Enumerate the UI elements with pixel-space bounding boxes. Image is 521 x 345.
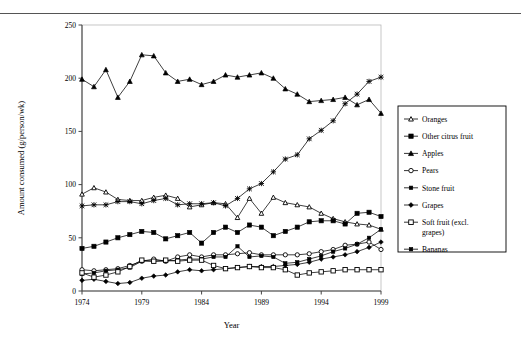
marker-filled-square (319, 219, 323, 223)
series-oranges (80, 185, 384, 231)
marker-star (199, 201, 204, 206)
marker-star (223, 203, 228, 208)
marker-star (175, 202, 180, 207)
marker-open-square (80, 271, 84, 275)
legend-label: Pears (422, 166, 438, 175)
series-apples (80, 52, 384, 115)
marker-filled-triangle (259, 70, 264, 74)
marker-filled-square (271, 234, 275, 238)
marker-star (235, 196, 240, 201)
marker-filled-diamond (116, 281, 121, 286)
x-tick-label: 1994 (314, 298, 329, 307)
series-other-citrus-fruit (80, 210, 383, 250)
marker-filled-square (307, 220, 311, 224)
series-line (82, 188, 381, 229)
marker-filled-triangle (127, 79, 132, 83)
series-bananas (79, 74, 383, 208)
marker-filled-diamond (175, 270, 180, 275)
marker-open-circle (379, 247, 383, 251)
marker-open-circle (367, 240, 371, 244)
marker-filled-triangle (187, 77, 192, 81)
marker-open-circle (409, 168, 413, 172)
legend-box (398, 106, 506, 252)
marker-open-square (295, 273, 299, 277)
marker-small-filled-square (409, 186, 412, 189)
y-axis-title: Amount consumed (g/person/wk) (16, 101, 26, 215)
marker-open-circle (235, 252, 239, 256)
x-tick-label: 1984 (194, 298, 209, 307)
marker-open-square (379, 268, 383, 272)
marker-filled-square (188, 230, 192, 234)
marker-filled-diamond (187, 267, 192, 272)
marker-small-filled-square (409, 247, 412, 250)
legend-label: Apples (422, 149, 444, 158)
x-tick-label: 1999 (374, 298, 389, 307)
marker-open-square (247, 264, 251, 268)
legend-label: Bananas (422, 245, 448, 254)
marker-star (295, 152, 300, 157)
series-soft-fruit-excl-grapes (80, 258, 383, 279)
series-line (82, 260, 381, 277)
legend-label: Stone fruit (422, 184, 455, 193)
marker-star (115, 199, 120, 204)
marker-filled-square (211, 230, 215, 234)
marker-open-triangle (271, 195, 276, 199)
series-line (82, 77, 381, 206)
marker-open-triangle (104, 190, 109, 194)
marker-open-square (355, 268, 359, 272)
marker-open-square (367, 268, 371, 272)
marker-star (307, 136, 312, 141)
marker-open-square (283, 268, 287, 272)
marker-open-triangle (175, 196, 180, 200)
marker-star (354, 92, 359, 97)
marker-filled-square (409, 134, 413, 138)
chart-figure: 050100150200250197419791984198919941999Y… (0, 0, 521, 345)
marker-filled-triangle (367, 97, 372, 101)
marker-open-circle (295, 253, 299, 257)
marker-filled-diamond (140, 276, 145, 281)
y-tick-label: 0 (72, 287, 76, 296)
legend-label: Soft fruit (excl. (422, 218, 469, 227)
marker-filled-diamond (151, 274, 156, 279)
marker-small-filled-square (248, 255, 251, 258)
marker-star (127, 199, 132, 204)
marker-open-square (235, 265, 239, 269)
marker-filled-diamond (199, 268, 204, 273)
marker-filled-square (331, 219, 335, 223)
marker-star (211, 200, 216, 205)
marker-filled-square (176, 234, 180, 238)
marker-filled-square (283, 229, 287, 233)
marker-filled-square (355, 211, 359, 215)
marker-small-filled-square (332, 250, 335, 253)
marker-open-triangle (247, 196, 252, 200)
marker-open-square (307, 271, 311, 275)
series-line (82, 229, 381, 274)
marker-open-square (199, 258, 203, 262)
marker-open-circle (319, 250, 323, 254)
marker-filled-triangle (271, 76, 276, 80)
marker-filled-triangle (104, 67, 109, 71)
marker-filled-triangle (211, 79, 216, 83)
marker-open-square (140, 258, 144, 262)
marker-open-circle (247, 251, 251, 255)
x-tick-label: 1979 (134, 298, 149, 307)
marker-star (331, 118, 336, 123)
marker-open-square (409, 220, 414, 225)
marker-open-square (331, 269, 335, 273)
marker-filled-diamond (104, 279, 109, 284)
marker-open-triangle (367, 223, 372, 227)
marker-filled-triangle (223, 73, 228, 77)
y-tick-label: 50 (69, 234, 77, 243)
marker-filled-square (259, 225, 263, 229)
marker-filled-triangle (163, 70, 168, 74)
marker-open-square (128, 264, 132, 268)
marker-filled-diamond (163, 273, 168, 278)
marker-open-triangle (355, 222, 360, 226)
y-tick-label: 100 (65, 180, 77, 189)
marker-filled-square (247, 223, 251, 227)
marker-star (163, 196, 168, 201)
legend-label: Other citrus fruit (422, 132, 474, 141)
marker-filled-square (199, 241, 203, 245)
marker-small-filled-square (212, 255, 215, 258)
marker-star (247, 186, 252, 191)
